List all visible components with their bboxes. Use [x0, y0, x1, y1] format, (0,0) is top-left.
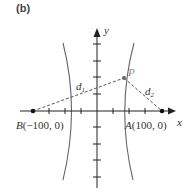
- d1-label: d1: [76, 80, 85, 94]
- point-P: [122, 76, 126, 80]
- x-axis-label: x: [176, 116, 182, 128]
- point-P-label: P: [127, 66, 135, 78]
- distance-line-d2: [124, 78, 162, 111]
- point-B: [31, 109, 36, 114]
- point-B-label: B(−100, 0): [16, 119, 64, 132]
- hyperbola-diagram: y x P B(−100, 0) A(100, 0) d1 d2: [0, 0, 186, 192]
- d1-subscript: 1: [82, 86, 86, 94]
- y-axis-label: y: [103, 24, 109, 36]
- point-A-coords: (100, 0): [132, 119, 167, 132]
- point-A-label: A(100, 0): [124, 119, 167, 132]
- point-B-coords: (−100, 0): [23, 119, 64, 132]
- x-axis-arrow-icon: [168, 108, 176, 115]
- d2-label: d2: [145, 85, 155, 99]
- d2-subscript: 2: [151, 91, 155, 99]
- y-axis-arrow-icon: [94, 28, 101, 37]
- point-A: [160, 109, 165, 114]
